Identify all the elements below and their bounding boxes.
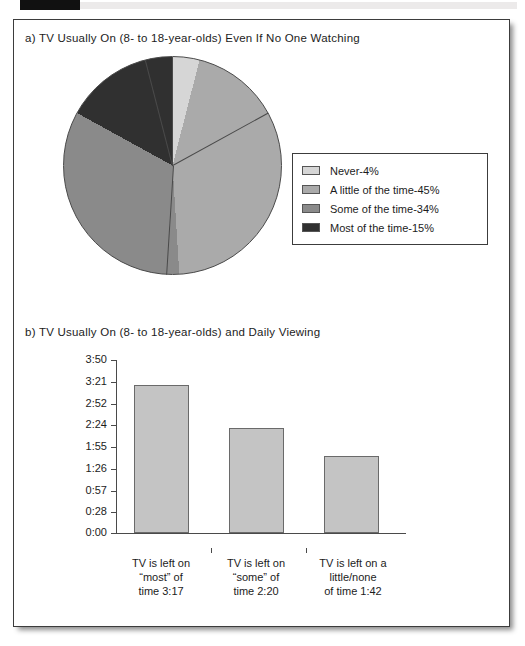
y-tick-label-6: 0:57: [86, 484, 107, 496]
pie-separator-2: [166, 166, 174, 275]
legend-label-never: Never-4%: [330, 165, 379, 177]
y-tick-label-0: 3:50: [86, 353, 107, 365]
legend-item-never: Never-4%: [302, 161, 478, 180]
y-tick-7: 0:28: [111, 512, 116, 513]
category-label-most: TV is left on “most” of time 3:17: [113, 556, 209, 598]
legend-label-some: Some of the time-34%: [330, 203, 439, 215]
y-tick-6: 0:57: [111, 491, 116, 492]
x-tick-1: [211, 548, 212, 553]
x-tick-2: [306, 548, 307, 553]
y-tick-label-5: 1:26: [86, 462, 107, 474]
bar-some: [229, 428, 284, 533]
y-tick-4: 1:55: [111, 447, 116, 448]
y-tick-8: 0:00: [111, 533, 116, 534]
pie-chart: [63, 56, 282, 275]
y-tick-label-4: 1:55: [86, 440, 107, 452]
legend-swatch-a-little: [302, 185, 320, 194]
panel-a-title: a) TV Usually On (8- to 18-year-olds) Ev…: [25, 32, 360, 44]
category-label-some: TV is left on “some” of time 2:20: [208, 556, 304, 598]
category-label-little-none: TV is left on a little/none of time 1:42: [303, 556, 403, 598]
legend-label-a-little: A little of the time-45%: [330, 184, 439, 196]
pie-separator-3: [172, 112, 268, 165]
legend-label-most: Most of the time-15%: [330, 222, 434, 234]
y-tick-label-8: 0:00: [86, 526, 107, 538]
bar-most: [134, 385, 189, 533]
y-tick-1: 3:21: [111, 382, 116, 383]
header-grey-rule: [80, 2, 517, 9]
pie-separator-1: [144, 60, 172, 166]
bar-little-none: [324, 456, 379, 533]
legend-swatch-most: [302, 223, 320, 232]
pie-legend: Never-4% A little of the time-45% Some o…: [292, 153, 488, 245]
figure-panel: a) TV Usually On (8- to 18-year-olds) Ev…: [13, 19, 510, 627]
y-tick-0: 3:50: [111, 360, 116, 361]
pie-chart-area: Never-4% A little of the time-45% Some o…: [14, 50, 511, 300]
page-header-band: [0, 0, 525, 14]
legend-item-some: Some of the time-34%: [302, 199, 478, 218]
legend-item-a-little: A little of the time-45%: [302, 180, 478, 199]
bar-chart-area: 3:50 3:21 2:52 2:24 1:55 1:26 0:57 0:28: [14, 346, 511, 616]
y-tick-label-1: 3:21: [86, 375, 107, 387]
y-tick-2: 2:52: [111, 404, 116, 405]
legend-swatch-some: [302, 204, 320, 213]
header-black-tab: [20, 0, 80, 10]
y-tick-label-3: 2:24: [86, 418, 107, 430]
y-tick-3: 2:24: [111, 425, 116, 426]
bar-chart-plot: 3:50 3:21 2:52 2:24 1:55 1:26 0:57 0:28: [116, 360, 401, 533]
y-tick-label-7: 0:28: [86, 505, 107, 517]
y-tick-label-2: 2:52: [86, 397, 107, 409]
legend-item-most: Most of the time-15%: [302, 218, 478, 237]
legend-swatch-never: [302, 166, 320, 175]
x-axis-line: [116, 533, 406, 534]
y-tick-5: 1:26: [111, 469, 116, 470]
panel-b-title: b) TV Usually On (8- to 18-year-olds) an…: [25, 326, 320, 338]
pie-separator-0: [172, 57, 173, 166]
